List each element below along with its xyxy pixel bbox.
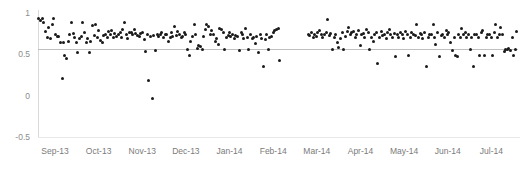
data-point (44, 30, 47, 33)
data-point (433, 36, 436, 39)
data-point (119, 31, 122, 34)
reference-line (38, 49, 518, 50)
x-tick-label: Apr-14 (348, 146, 374, 156)
data-point (456, 55, 459, 58)
data-point (81, 21, 84, 24)
data-point (436, 31, 439, 34)
x-tick-label: Nov-13 (129, 146, 156, 156)
data-point (121, 28, 124, 31)
data-point (308, 34, 311, 37)
data-point (72, 32, 75, 35)
data-point (61, 77, 64, 80)
data-point (67, 40, 70, 43)
x-tick-label: Feb-14 (260, 146, 287, 156)
data-point (70, 21, 73, 24)
data-point (385, 37, 388, 40)
data-point (490, 36, 493, 39)
x-tick-label: Oct-13 (86, 146, 112, 156)
data-point (394, 55, 397, 58)
data-point (372, 40, 375, 43)
data-point (189, 40, 192, 43)
data-point (212, 33, 215, 36)
data-point (188, 54, 191, 57)
data-point (409, 36, 412, 39)
data-point (363, 36, 366, 39)
data-point (147, 79, 150, 82)
data-point (233, 37, 236, 40)
data-point (186, 48, 189, 51)
data-point (154, 49, 157, 52)
data-point (152, 34, 155, 37)
x-tick-label: Sep-13 (41, 146, 68, 156)
data-point (401, 33, 404, 36)
data-point (331, 48, 334, 51)
data-point (346, 30, 349, 33)
data-point (357, 29, 360, 32)
data-point (259, 33, 262, 36)
data-point (247, 48, 250, 51)
data-point (47, 26, 50, 29)
data-point (83, 31, 86, 34)
data-point (460, 27, 463, 30)
data-point (88, 51, 91, 54)
y-tick-label: 0.5 (0, 49, 30, 59)
data-point (391, 36, 394, 39)
data-point (104, 33, 107, 36)
data-point (170, 31, 173, 34)
x-tick-label: Jan-14 (217, 146, 243, 156)
data-point (488, 33, 491, 36)
data-point (334, 33, 337, 36)
x-axis-line (38, 137, 520, 138)
data-point (397, 36, 400, 39)
y-tick-label: 1 (0, 8, 30, 18)
data-point (417, 36, 420, 39)
data-point (443, 36, 446, 39)
data-point (257, 51, 260, 54)
data-point (80, 35, 83, 38)
y-tick-label: 0 (0, 91, 30, 101)
data-point (202, 35, 205, 38)
x-tick-label: Jul-14 (480, 146, 503, 156)
data-point (438, 55, 441, 58)
data-point (380, 30, 383, 33)
data-point (481, 29, 484, 32)
data-point (106, 36, 109, 39)
data-point (470, 36, 473, 39)
data-point (57, 35, 60, 38)
data-point (326, 18, 329, 21)
data-point (42, 21, 45, 24)
data-point (265, 33, 268, 36)
x-tick-label: Dec-13 (172, 146, 199, 156)
x-tick-label: Mar-14 (303, 146, 330, 156)
data-point (441, 33, 444, 36)
data-point (171, 35, 174, 38)
data-point (73, 36, 76, 39)
data-point (126, 37, 129, 40)
data-point (511, 36, 514, 39)
data-point (342, 48, 345, 51)
data-point (483, 54, 486, 57)
data-point (354, 36, 357, 39)
data-point (173, 25, 176, 28)
data-point (421, 37, 424, 40)
data-point (223, 48, 226, 51)
data-point (451, 49, 454, 52)
data-point (215, 37, 218, 40)
data-point (447, 31, 450, 34)
data-point (194, 33, 197, 36)
data-point (472, 65, 475, 68)
data-point (347, 26, 350, 29)
data-point (49, 37, 52, 40)
data-point (165, 33, 168, 36)
data-point (494, 23, 497, 26)
data-point (402, 37, 405, 40)
data-point (493, 31, 496, 34)
data-point (375, 31, 378, 34)
data-point (241, 33, 244, 36)
data-point (407, 54, 410, 57)
data-point (336, 41, 339, 44)
data-point (432, 23, 435, 26)
data-point (76, 51, 79, 54)
data-point (509, 49, 512, 52)
data-point (278, 59, 281, 62)
